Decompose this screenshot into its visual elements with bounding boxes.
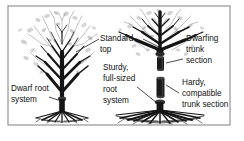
diagram-canvas: Standard top Dwarfing trunk section Dwar… xyxy=(0,0,244,141)
label-dwarf-root-system-line1: Dwarf root xyxy=(11,84,49,93)
label-sturdy-root-line1: Sturdy, xyxy=(103,63,128,72)
label-dwarfing-trunk-section-line2: trunk xyxy=(186,45,205,54)
label-sturdy-root-line2: full-sized xyxy=(103,74,136,83)
label-sturdy-root-line4: system xyxy=(103,96,129,105)
label-dwarfing-trunk-section-line1: Dwarfing xyxy=(186,34,219,43)
label-dwarf-root-system-line2: system xyxy=(11,95,37,104)
label-hardy-trunk-line3: trunk section xyxy=(182,100,229,109)
label-standard-top-line2: top xyxy=(100,45,112,54)
label-standard-top-line1: Standard xyxy=(100,34,134,43)
label-sturdy-root-line3: root xyxy=(103,85,118,94)
hardy-compatible-trunk-section xyxy=(157,77,165,98)
right-tree-top-graft-union xyxy=(155,52,164,56)
tree-grafting-diagram: Standard top Dwarfing trunk section Dwar… xyxy=(0,0,244,141)
label-hardy-trunk-line1: Hardy, xyxy=(182,78,206,87)
dwarfing-trunk-section xyxy=(157,56,164,71)
left-tree-trunk-base xyxy=(59,99,65,111)
label-dwarfing-trunk-section-line3: section xyxy=(186,56,212,65)
label-hardy-trunk-line2: compatible xyxy=(182,89,222,98)
